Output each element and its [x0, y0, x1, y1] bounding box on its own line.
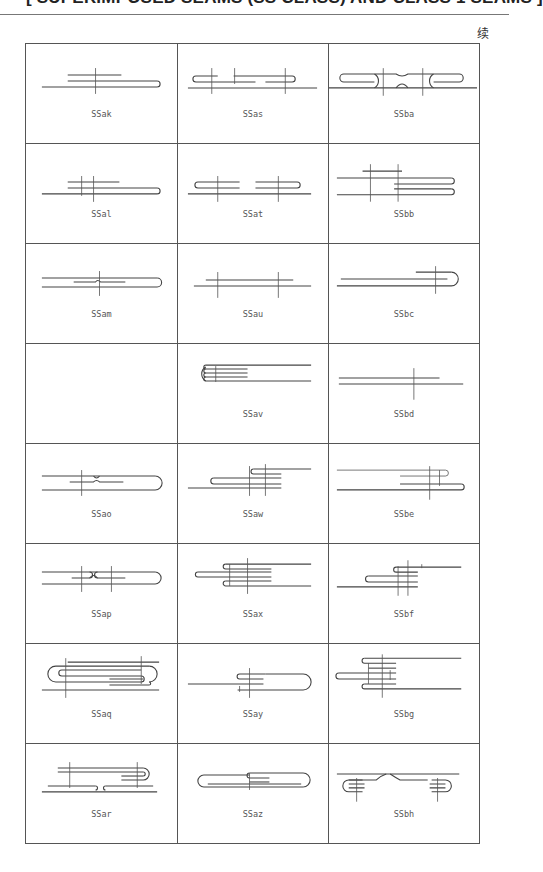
seam-diagram-icon — [26, 444, 177, 514]
seam-diagram-icon — [178, 244, 328, 314]
seam-label: SSas — [178, 109, 328, 119]
seam-diagram-icon — [329, 444, 479, 514]
seam-label: SSbc — [329, 309, 479, 319]
seam-label: SSak — [26, 109, 177, 119]
seam-diagram-icon — [329, 44, 479, 114]
seam-cell-empty — [26, 344, 178, 444]
seam-diagram-icon — [178, 144, 328, 214]
seam-diagram-icon — [329, 744, 479, 814]
title-divider — [0, 14, 509, 15]
seam-label: SSap — [26, 609, 177, 619]
seam-cell-ssbd: SSbd — [329, 344, 479, 444]
page-title: [ SUPERIMPOSED SEAMS (SS CLASS) AND CLAS… — [26, 0, 543, 8]
seam-label: SSaw — [178, 509, 328, 519]
seam-diagram-icon — [178, 344, 328, 414]
seam-diagram-icon — [178, 744, 328, 814]
seam-label: SSav — [178, 409, 328, 419]
seam-cell-ssbg: SSbg — [329, 644, 479, 744]
seam-cell-ssar: SSar — [26, 744, 178, 843]
seam-diagram-icon — [26, 644, 177, 714]
seam-cell-ssax: SSax — [178, 544, 329, 644]
seam-diagram-icon — [26, 744, 177, 814]
seam-cell-ssat: SSat — [178, 144, 329, 244]
seam-label: SSbg — [329, 709, 479, 719]
seam-cell-ssap: SSap — [26, 544, 178, 644]
seam-cell-ssak: SSak — [26, 44, 178, 144]
seam-cell-ssbe: SSbe — [329, 444, 479, 544]
seam-diagram-icon — [26, 144, 177, 214]
seam-diagram-table: SSak SSas SSba SSal — [25, 43, 480, 844]
seam-label: SSau — [178, 309, 328, 319]
seam-label: SSbd — [329, 409, 479, 419]
seam-diagram-icon — [329, 644, 479, 714]
seam-cell-ssav: SSav — [178, 344, 329, 444]
seam-cell-ssaq: SSaq — [26, 644, 178, 744]
seam-diagram-icon — [178, 644, 328, 714]
seam-label: SSar — [26, 809, 177, 819]
seam-diagram-icon — [178, 444, 328, 514]
seam-cell-ssao: SSao — [26, 444, 178, 544]
seam-cell-ssaz: SSaz — [178, 744, 329, 843]
seam-cell-ssbc: SSbc — [329, 244, 479, 344]
seam-cell-ssas: SSas — [178, 44, 329, 144]
seam-diagram-icon — [26, 44, 177, 114]
seam-diagram-icon — [329, 544, 479, 614]
seam-label: SSbh — [329, 809, 479, 819]
seam-label: SSbb — [329, 209, 479, 219]
seam-cell-ssay: SSay — [178, 644, 329, 744]
seam-diagram-icon — [26, 544, 177, 614]
seam-label: SSam — [26, 309, 177, 319]
seam-label: SSal — [26, 209, 177, 219]
seam-label: SSax — [178, 609, 328, 619]
seam-diagram-icon — [329, 244, 479, 314]
seam-label: SSbe — [329, 509, 479, 519]
seam-label: SSaq — [26, 709, 177, 719]
seam-cell-ssba: SSba — [329, 44, 479, 144]
seam-cell-ssam: SSam — [26, 244, 178, 344]
seam-cell-ssbh: SSbh — [329, 744, 479, 843]
continued-marker: 续 — [477, 24, 489, 41]
seam-diagram-icon — [329, 144, 479, 214]
seam-diagram-icon — [178, 44, 328, 114]
seam-label: SSat — [178, 209, 328, 219]
seam-label: SSao — [26, 509, 177, 519]
seam-label: SSbf — [329, 609, 479, 619]
seam-label: SSaz — [178, 809, 328, 819]
seam-diagram-icon — [329, 344, 479, 414]
seam-cell-ssau: SSau — [178, 244, 329, 344]
seam-label: SSba — [329, 109, 479, 119]
seam-diagram-icon — [26, 244, 177, 314]
seam-label: SSay — [178, 709, 328, 719]
seam-cell-ssbf: SSbf — [329, 544, 479, 644]
seam-cell-ssbb: SSbb — [329, 144, 479, 244]
seam-diagram-icon — [178, 544, 328, 614]
seam-cell-ssal: SSal — [26, 144, 178, 244]
seam-cell-ssaw: SSaw — [178, 444, 329, 544]
